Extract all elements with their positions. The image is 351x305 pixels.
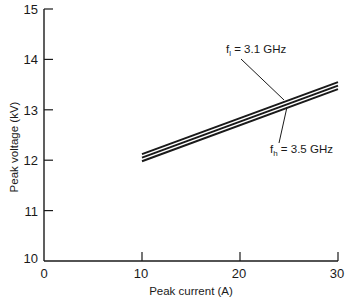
y-tick-label: 10 <box>24 251 38 266</box>
y-tick-label: 14 <box>24 52 38 67</box>
x-tick-label: 10 <box>134 266 148 281</box>
y-tick-label: 11 <box>25 204 39 219</box>
y-tick-label: 12 <box>24 153 38 168</box>
annotation-leader-line <box>279 107 287 143</box>
x-axis-title: Peak current (A) <box>149 285 233 297</box>
annotation-label: fl = 3.1 GHz <box>226 43 287 58</box>
chart-canvas: 1011121314150102030 fl = 3.1 GHzfh = 3.5… <box>0 0 351 305</box>
x-tick-label: 0 <box>40 266 47 281</box>
x-tick-label: 20 <box>232 266 246 281</box>
x-tick-label: 30 <box>330 266 344 281</box>
annotation-label: fh = 3.5 GHz <box>270 143 333 158</box>
annotation-leader-line <box>241 59 284 100</box>
y-axis-title: Peak voltage (kV) <box>8 101 20 192</box>
annotations: fl = 3.1 GHzfh = 3.5 GHz <box>226 43 333 158</box>
y-tick-label: 15 <box>24 2 38 17</box>
y-tick-label: 13 <box>24 103 38 118</box>
